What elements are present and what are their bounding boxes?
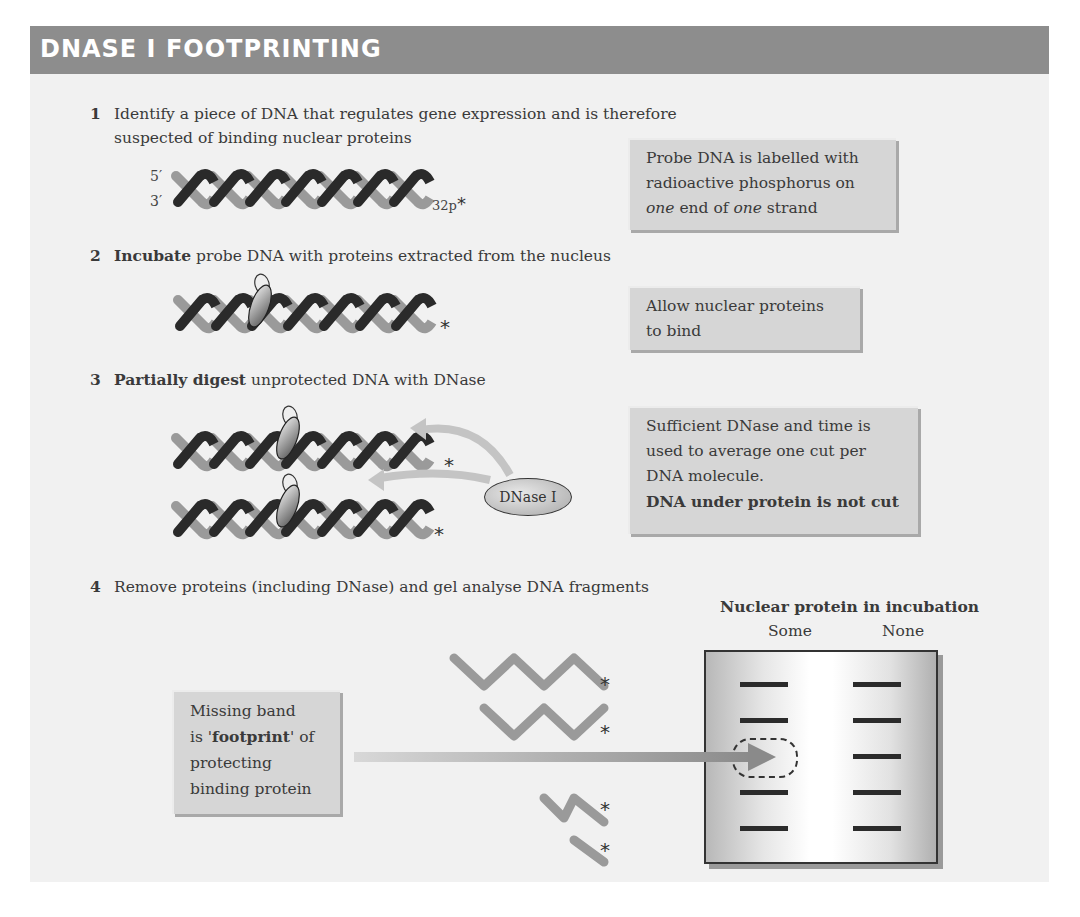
gel-band-some-5	[740, 826, 788, 831]
dnase-label: DNase I	[499, 489, 556, 505]
step-text: Remove proteins (including DNase) and ge…	[114, 578, 649, 596]
gel-band-none-2	[853, 718, 901, 723]
note-line: protecting	[190, 750, 328, 776]
gel-band-none-1	[853, 682, 901, 687]
step-text: probe DNA with proteins extracted from t…	[191, 247, 611, 265]
dna-helix-probe	[170, 170, 450, 210]
note-probe: Probe DNA is labelled with radioactive p…	[628, 138, 896, 230]
note-line: used to average one cut per	[646, 439, 906, 464]
three-prime-label: 3′	[150, 193, 162, 209]
step-3: 3Partially digest unprotected DNA with D…	[90, 368, 486, 392]
gel-band-none-5	[853, 826, 901, 831]
note-line: Sufficient DNase and time is	[646, 414, 906, 439]
fragment-asterisk: *	[600, 672, 610, 696]
step-number: 1	[90, 102, 114, 126]
step-number: 2	[90, 244, 114, 268]
dna-fragments	[440, 650, 620, 860]
note-line: Missing band	[190, 698, 328, 724]
note-line: DNA molecule.	[646, 464, 906, 489]
nuclear-protein-icon	[272, 404, 312, 464]
step-4: 4Remove proteins (including DNase) and g…	[90, 575, 649, 599]
gel-title: Nuclear protein in incubation	[720, 597, 979, 616]
gel-band-none-3	[853, 754, 901, 759]
note-line: binding protein	[190, 776, 328, 802]
gel-column-some: Some	[768, 622, 812, 640]
gel-column-none: None	[882, 622, 924, 640]
note-bind: Allow nuclear proteins to bind	[628, 286, 860, 350]
fragment-asterisk: *	[600, 797, 610, 821]
note-line: Allow nuclear proteins	[646, 294, 848, 319]
five-prime-label: 5′	[150, 168, 162, 184]
step-1: 1Identify a piece of DNA that regulates …	[90, 102, 677, 126]
step-1-line2: suspected of binding nuclear proteins	[114, 126, 412, 150]
radiolabel-asterisk: *	[444, 453, 454, 477]
step-text: suspected of binding nuclear proteins	[114, 129, 412, 147]
step-number: 4	[90, 575, 114, 599]
note-footprint: Missing band is 'footprint' of protectin…	[172, 690, 340, 814]
dna-helix-with-protein	[172, 294, 452, 334]
dnase-enzyme: DNase I	[484, 478, 572, 516]
note-line: radioactive phosphorus on	[646, 171, 884, 196]
note-line: is 'footprint' of	[190, 724, 328, 750]
step-number: 3	[90, 368, 114, 392]
note-line: to bind	[646, 319, 848, 344]
nuclear-protein-icon	[272, 472, 312, 532]
step-bold: Incubate	[114, 246, 191, 265]
step-bold: Partially digest	[114, 370, 246, 389]
note-line: Probe DNA is labelled with	[646, 146, 884, 171]
gel-band-some-1	[740, 682, 788, 687]
note-line: one end of one strand	[646, 196, 884, 221]
fragment-asterisk: *	[600, 838, 610, 862]
step-2: 2Incubate probe DNA with proteins extrac…	[90, 244, 611, 268]
gel-band-none-4	[853, 790, 901, 795]
radiolabel-asterisk: *	[434, 522, 444, 546]
fragment-asterisk: *	[600, 720, 610, 744]
page-title: DNASE I FOOTPRINTING	[40, 35, 382, 63]
note-dnase: Sufficient DNase and time is used to ave…	[628, 406, 918, 534]
radiolabel-label: 32p*	[432, 193, 466, 214]
nuclear-protein-icon	[244, 272, 284, 332]
radiolabel-asterisk: *	[440, 315, 450, 339]
gel-band-some-2	[740, 718, 788, 723]
step-text: unprotected DNA with DNase	[246, 371, 486, 389]
gel-band-some-4	[740, 790, 788, 795]
note-line: DNA under protein is not cut	[646, 489, 906, 515]
step-text: Identify a piece of DNA that regulates g…	[114, 105, 677, 123]
title-bar: DNASE I FOOTPRINTING	[30, 26, 1049, 74]
